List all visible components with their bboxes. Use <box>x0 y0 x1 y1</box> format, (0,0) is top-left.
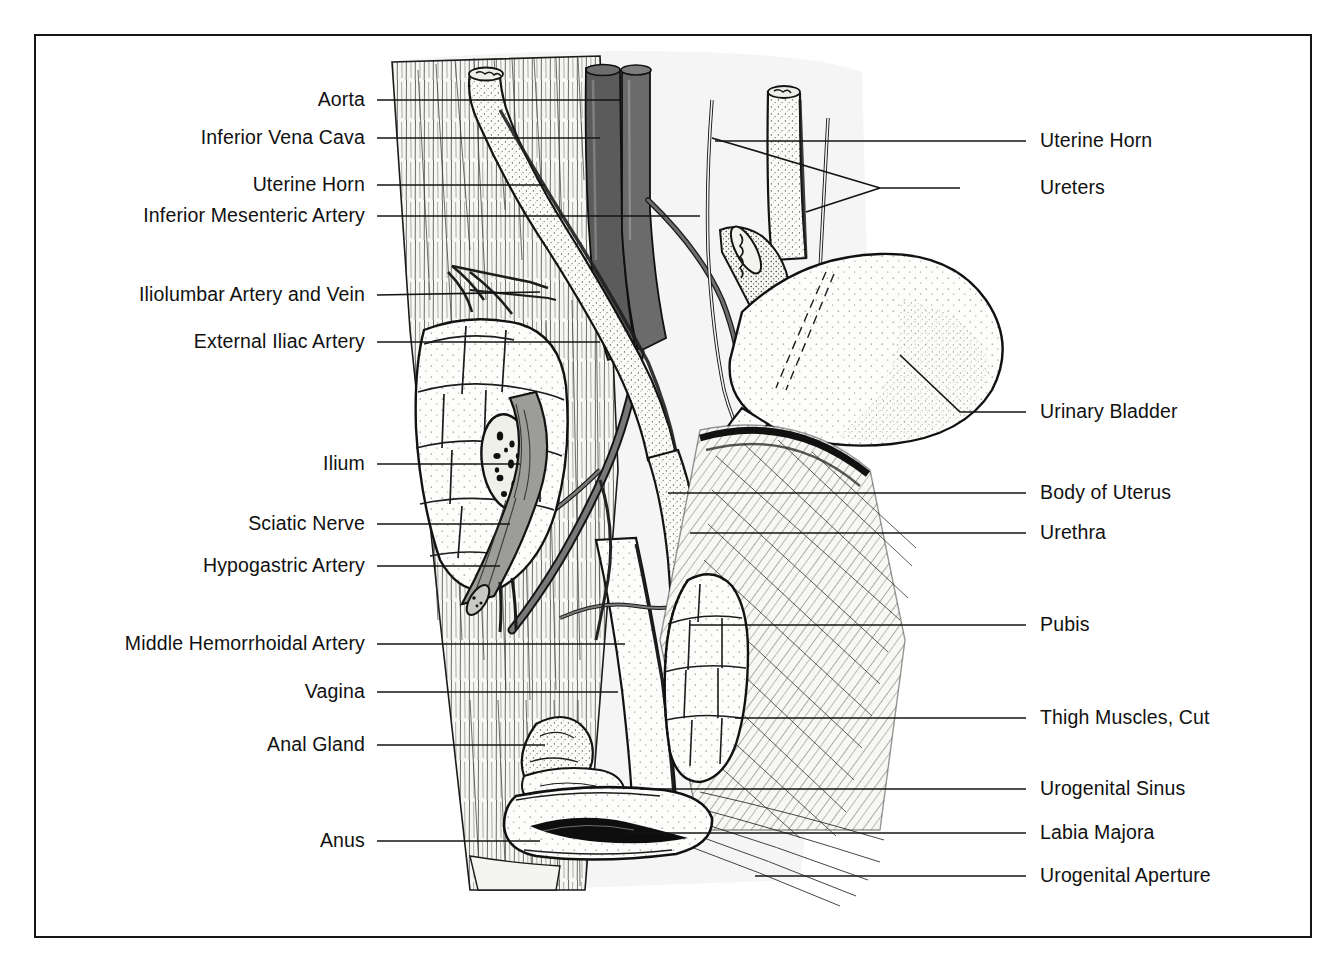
label-urogenital-sinus: Urogenital Sinus <box>1040 779 1185 799</box>
label-urethra: Urethra <box>1040 523 1106 543</box>
label-urinary-bladder: Urinary Bladder <box>1040 402 1178 422</box>
label-middle-hemorrhoidal-artery: Middle Hemorrhoidal Artery <box>125 634 365 654</box>
label-hypogastric-artery: Hypogastric Artery <box>203 556 365 576</box>
label-uterine-horn-right: Uterine Horn <box>1040 131 1152 151</box>
label-iliolumbar-artery-and-vein: Iliolumbar Artery and Vein <box>139 285 365 305</box>
label-urogenital-aperture: Urogenital Aperture <box>1040 866 1211 886</box>
label-uterine-horn-left: Uterine Horn <box>253 175 365 195</box>
label-sciatic-nerve: Sciatic Nerve <box>248 514 365 534</box>
label-labia-majora: Labia Majora <box>1040 823 1155 843</box>
label-inferior-mesenteric-artery: Inferior Mesenteric Artery <box>143 206 365 226</box>
ureters-fork-leader <box>712 138 960 212</box>
label-external-iliac-artery: External Iliac Artery <box>194 332 365 352</box>
label-ilium: Ilium <box>323 454 365 474</box>
label-pubis: Pubis <box>1040 615 1090 635</box>
leader-urinary-bladder <box>900 355 1026 412</box>
label-vagina: Vagina <box>305 682 365 702</box>
label-thigh-muscles-cut: Thigh Muscles, Cut <box>1040 708 1210 728</box>
leader-lines-right <box>628 141 1026 876</box>
label-anal-gland: Anal Gland <box>267 735 365 755</box>
label-ureters: Ureters <box>1040 178 1105 198</box>
label-body-of-uterus: Body of Uterus <box>1040 483 1171 503</box>
leader-lines-left <box>377 100 700 841</box>
label-aorta: Aorta <box>318 90 365 110</box>
label-anus: Anus <box>320 831 365 851</box>
label-inferior-vena-cava: Inferior Vena Cava <box>201 128 365 148</box>
leader-iliolumbar-artery-and-vein <box>377 292 540 295</box>
